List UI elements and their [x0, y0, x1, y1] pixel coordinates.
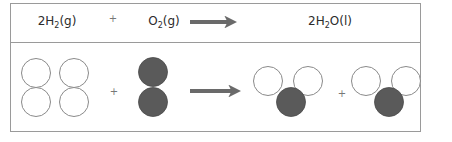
h2-molecule-1 — [22, 59, 51, 117]
particle-diagram — [0, 0, 452, 142]
hydrogen-atom — [60, 59, 89, 88]
h2o-molecule-1 — [254, 67, 323, 117]
hydrogen-atom — [60, 88, 89, 117]
o2-molecule — [139, 58, 168, 117]
hydrogen-atom — [22, 88, 51, 117]
hydrogen-atom — [352, 67, 381, 96]
oxygen-atom — [277, 88, 306, 117]
oxygen-atom — [375, 88, 404, 117]
hydrogen-atom — [254, 67, 283, 96]
oxygen-atom — [139, 88, 168, 117]
hydrogen-atom — [22, 59, 51, 88]
oxygen-atom — [139, 58, 168, 87]
h2-molecule-2 — [60, 59, 89, 117]
h2o-molecule-2 — [352, 67, 421, 117]
